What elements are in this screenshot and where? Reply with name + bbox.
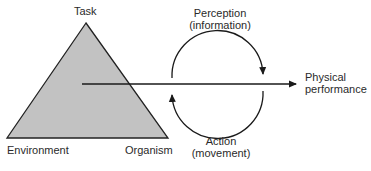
perception-label-line2: (information)	[187, 19, 253, 31]
organism-label: Organism	[125, 144, 173, 156]
perception-arc-arrow	[172, 30, 263, 78]
action-label-line2: (movement)	[190, 147, 252, 159]
physical-performance-line2: performance	[305, 83, 367, 95]
perception-label: Perception (information)	[187, 7, 253, 31]
task-label: Task	[74, 5, 97, 17]
action-label: Action (movement)	[190, 135, 252, 159]
physical-performance-line1: Physical	[305, 71, 367, 83]
physical-performance-label: Physical performance	[305, 71, 367, 95]
perception-label-line1: Perception	[187, 7, 253, 19]
environment-label: Environment	[7, 144, 69, 156]
action-label-line1: Action	[190, 135, 252, 147]
constraints-triangle	[7, 23, 168, 138]
action-arc-arrow	[172, 91, 263, 139]
